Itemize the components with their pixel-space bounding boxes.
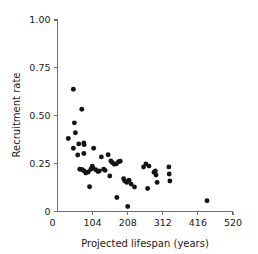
data-point: [118, 159, 123, 164]
data-point: [167, 172, 172, 177]
data-point: [167, 179, 172, 184]
data-point: [73, 130, 78, 135]
data-point: [132, 185, 137, 190]
x-tick-label: 312: [154, 217, 172, 228]
data-points-layer: [66, 87, 210, 209]
data-point: [166, 164, 171, 169]
data-point: [66, 136, 71, 141]
data-point: [107, 174, 112, 179]
data-point: [72, 120, 77, 125]
data-point: [147, 164, 152, 169]
data-point: [82, 142, 87, 147]
data-point: [106, 152, 111, 157]
chart-canvas: 00.250.500.751.00 0104208312416520 Proje…: [0, 0, 258, 254]
data-point: [97, 168, 102, 173]
x-axis-title: Projected lifespan (years): [81, 238, 209, 249]
y-tick-label: 0.50: [29, 110, 50, 121]
y-tick-label: 0: [44, 206, 50, 217]
y-tick-label: 0.75: [29, 62, 50, 73]
data-point: [114, 195, 119, 200]
data-point: [103, 168, 108, 173]
data-point: [205, 198, 210, 203]
y-tick-label: 0.25: [29, 158, 50, 169]
data-point: [99, 154, 104, 159]
data-point: [81, 151, 86, 156]
data-point: [76, 141, 81, 146]
data-point: [125, 204, 130, 209]
data-point: [71, 87, 76, 92]
data-point: [155, 180, 160, 185]
scatter-plot-figure: 00.250.500.751.00 0104208312416520 Proje…: [0, 0, 258, 254]
data-point: [145, 186, 150, 191]
data-point: [153, 168, 158, 173]
data-point: [75, 153, 80, 158]
data-point: [71, 146, 76, 151]
x-tick-label: 520: [224, 217, 242, 228]
x-axis-tick-labels: 0104208312416520: [49, 217, 242, 228]
data-point: [154, 173, 159, 178]
y-tick-label: 1.00: [29, 14, 50, 25]
data-point: [91, 146, 96, 151]
x-tick-label: 104: [84, 217, 102, 228]
x-tick-label: 0: [49, 217, 55, 228]
y-axis-tick-labels: 00.250.500.751.00: [29, 14, 50, 217]
data-point: [87, 184, 92, 189]
data-point: [79, 107, 84, 112]
x-tick-label: 416: [189, 217, 207, 228]
y-axis-title: Recruitment rate: [11, 73, 22, 158]
x-tick-label: 208: [119, 217, 137, 228]
